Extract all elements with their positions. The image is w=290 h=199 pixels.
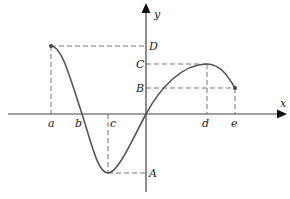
function-graph-diagram: y x a b c d e D C B A (0, 0, 290, 199)
y-axis-arrow-icon (142, 3, 151, 13)
start-point-dot (49, 44, 53, 48)
y-tick-D: D (148, 40, 158, 53)
y-tick-A: A (148, 167, 157, 180)
y-tick-C: C (136, 58, 145, 71)
x-tick-c: c (110, 117, 116, 130)
x-tick-d: d (202, 117, 209, 130)
y-axis-label: y (153, 8, 161, 21)
x-axis-arrow-icon (277, 110, 287, 119)
x-tick-e: e (231, 117, 238, 130)
x-tick-a: a (48, 117, 55, 130)
graph-canvas: y x a b c d e D C B A (0, 0, 290, 199)
axes (8, 10, 280, 192)
x-tick-b: b (75, 117, 82, 130)
y-tick-B: B (135, 82, 144, 95)
end-point-dot (233, 86, 237, 90)
x-axis-label: x (280, 97, 287, 110)
